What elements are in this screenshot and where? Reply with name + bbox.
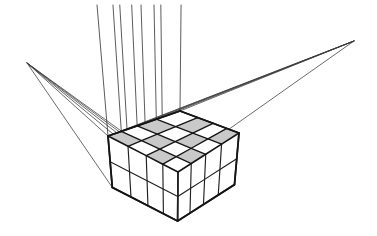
perspective-cube-figure: Three-point perspective cube grid constr… [0,0,377,236]
